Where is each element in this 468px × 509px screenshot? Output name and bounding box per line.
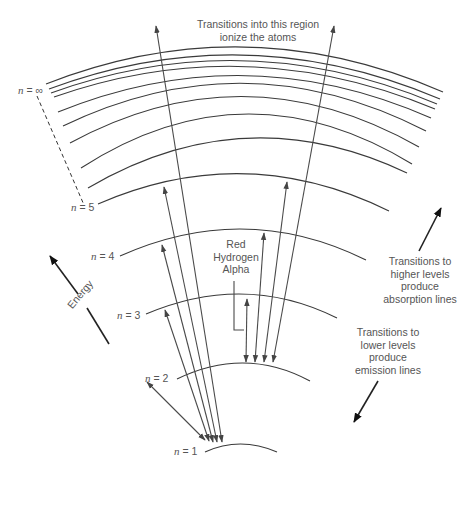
emission-direction-arrow — [354, 381, 378, 422]
emission-annotation: Transitions to lower levels produce emis… — [343, 326, 433, 376]
dashed-connector — [37, 96, 84, 205]
absorption-text-line: Transitions to — [372, 255, 468, 268]
energy-arrow-upper — [50, 256, 78, 294]
absorption-direction-arrow — [419, 208, 441, 251]
absorption-text-line: absorption lines — [372, 293, 468, 306]
emission-text-line: lower levels — [343, 339, 433, 352]
red-alpha-text-line: Red — [206, 238, 266, 251]
label-value: = 2 — [151, 372, 169, 384]
label-value: = 3 — [123, 309, 141, 321]
ionization-text-line: ionize the atoms — [176, 31, 340, 44]
label-value: = ∞ — [24, 84, 43, 96]
absorption-text-line: higher levels — [372, 268, 468, 281]
label-value: = 1 — [180, 445, 198, 457]
red-alpha-text-line: Hydrogen — [206, 251, 266, 264]
level-n1 — [205, 444, 277, 452]
label-n3: n = 3 — [117, 309, 140, 321]
ionization-annotation: Transitions into this region ionize the … — [176, 18, 340, 43]
absorption-annotation: Transitions to higher levels produce abs… — [372, 255, 468, 305]
emission-text-line: produce — [343, 351, 433, 364]
label-n2: n = 2 — [145, 372, 168, 384]
red-alpha-text-line: Alpha — [206, 263, 266, 276]
label-n5: n = 5 — [71, 201, 94, 213]
label-n-infinity: n = ∞ — [18, 84, 43, 96]
label-n4: n = 4 — [91, 250, 114, 262]
red-hydrogen-alpha-arrow — [246, 299, 247, 362]
level-n5 — [98, 174, 389, 211]
label-value: = 5 — [77, 201, 95, 213]
ionization-text-line: Transitions into this region — [176, 18, 340, 31]
level-n3 — [146, 294, 337, 318]
continuum-levels — [46, 47, 443, 188]
energy-arrow-lower — [87, 308, 109, 344]
label-value: = 4 — [97, 250, 115, 262]
red-alpha-leader — [234, 281, 244, 330]
label-n1: n = 1 — [174, 445, 197, 457]
red-hydrogen-alpha-annotation: Red Hydrogen Alpha — [206, 238, 266, 276]
emission-text-line: emission lines — [343, 364, 433, 377]
emission-text-line: Transitions to — [343, 326, 433, 339]
absorption-text-line: produce — [372, 280, 468, 293]
